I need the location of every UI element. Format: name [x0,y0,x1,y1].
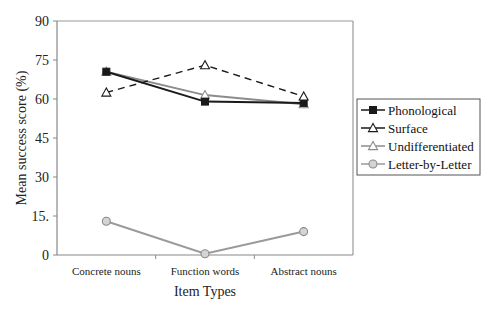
data-point [103,68,110,75]
x-tick-label: Function words [171,265,240,277]
legend-marker-icon [370,107,377,114]
y-axis-title: Mean success score (%) [14,70,30,205]
y-tick-label: 90 [35,14,49,29]
data-point [201,250,209,258]
legend-label: Undifferentiated [388,139,474,154]
line-chart: 015.3045607590 Concrete nounsFunction wo… [0,0,496,315]
x-axis-title: Item Types [174,284,236,299]
series-phonological [103,68,307,106]
legend-label: Phonological [388,103,457,118]
data-point [202,98,209,105]
x-tick-label: Concrete nouns [72,265,141,277]
x-tick-label: Abstract nouns [271,265,337,277]
y-tick-label: 45 [35,131,49,146]
x-axis-ticks: Concrete nounsFunction wordsAbstract nou… [72,255,337,277]
data-point [102,217,110,225]
y-tick-label: 30 [35,170,49,185]
legend: PhonologicalSurfaceUndifferentiatedLette… [357,99,480,175]
y-tick-label: 0 [42,248,49,263]
legend-label: Surface [388,121,428,136]
series-layer [102,61,308,258]
data-point [299,92,308,100]
y-axis-ticks: 015.3045607590 [32,14,58,263]
y-tick-label: 60 [35,92,49,107]
data-point [201,61,210,69]
data-point [300,228,308,236]
legend-marker-icon [369,160,377,168]
legend-label: Letter-by-Letter [388,157,472,172]
y-tick-label: 15. [32,209,50,224]
plot-area [57,21,353,255]
y-tick-label: 75 [35,53,49,68]
series-letter-by-letter [102,217,307,258]
series-line [106,221,303,254]
